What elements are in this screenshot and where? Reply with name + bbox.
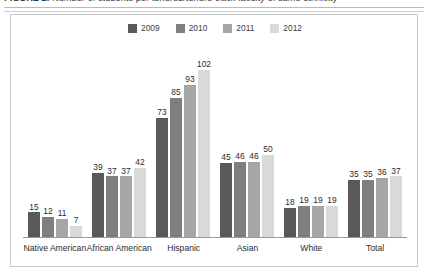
- legend-item-2011[interactable]: 2011: [223, 24, 254, 33]
- bar-value-label: 93: [185, 75, 194, 83]
- bar-rect: [170, 98, 183, 237]
- bar-value-label: 11: [58, 209, 67, 217]
- bar-value-label: 19: [327, 196, 336, 204]
- chart-frame: 2009201020112012 15121173937374273859310…: [10, 14, 418, 267]
- bar-group-hispanic: 738593102: [151, 45, 215, 237]
- bar-white-2011[interactable]: 19: [312, 45, 325, 237]
- bar-rect: [156, 118, 169, 237]
- bar-group-african-american: 39373742: [87, 45, 151, 237]
- bar-rect: [28, 212, 41, 237]
- bar-value-label: 36: [377, 168, 386, 176]
- bar-value-label: 37: [121, 167, 130, 175]
- bar-value-label: 85: [171, 88, 180, 96]
- bar-rect: [326, 206, 339, 237]
- bar-native-american-2012[interactable]: 7: [70, 45, 83, 237]
- bar-value-label: 45: [221, 153, 230, 161]
- bar-total-2009[interactable]: 35: [348, 45, 361, 237]
- bar-native-american-2010[interactable]: 12: [42, 45, 55, 237]
- bar-rect: [120, 176, 133, 237]
- bar-native-american-2011[interactable]: 11: [56, 45, 69, 237]
- bar-value-label: 19: [299, 196, 308, 204]
- bar-value-label: 18: [285, 198, 294, 206]
- bar-total-2011[interactable]: 36: [376, 45, 389, 237]
- x-axis-label-native-american: Native American: [23, 243, 87, 253]
- x-axis-label-african-american: African American: [87, 243, 152, 253]
- figure-caption-number: FIGURE 2.: [4, 0, 49, 3]
- bar-rect: [106, 176, 119, 237]
- bar-asian-2012[interactable]: 50: [262, 45, 275, 237]
- bar-hispanic-2012[interactable]: 102: [198, 45, 211, 237]
- caption-rule-thick: [4, 7, 424, 8]
- bar-rect: [56, 219, 69, 237]
- bar-hispanic-2011[interactable]: 93: [184, 45, 197, 237]
- x-axis-label-asian: Asian: [216, 243, 280, 253]
- bar-rect: [298, 206, 311, 237]
- legend-swatch-2010: [176, 24, 185, 33]
- bar-value-label: 46: [249, 152, 258, 160]
- bar-group-native-american: 1512117: [23, 45, 87, 237]
- bar-value-label: 46: [235, 152, 244, 160]
- bar-group-white: 18191919: [279, 45, 343, 237]
- bar-total-2010[interactable]: 35: [362, 45, 375, 237]
- bar-value-label: 73: [157, 108, 166, 116]
- bar-asian-2010[interactable]: 46: [234, 45, 247, 237]
- bar-rect: [184, 85, 197, 237]
- legend-item-2010[interactable]: 2010: [176, 24, 208, 33]
- figure-container: FIGURE 2. Number of students per tenured…: [0, 0, 428, 273]
- figure-caption: FIGURE 2. Number of students per tenured…: [4, 0, 428, 5]
- plot-area: 1512117393737427385931024546465018191919…: [23, 45, 407, 237]
- caption-rule-thin: [4, 11, 424, 12]
- chart-legend: 2009201020112012: [11, 24, 419, 33]
- bar-native-american-2009[interactable]: 15: [28, 45, 41, 237]
- bar-white-2012[interactable]: 19: [326, 45, 339, 237]
- bar-value-label: 37: [107, 167, 116, 175]
- bar-african-american-2012[interactable]: 42: [134, 45, 147, 237]
- x-axis-label-hispanic: Hispanic: [152, 243, 216, 253]
- bar-african-american-2011[interactable]: 37: [120, 45, 133, 237]
- bar-total-2012[interactable]: 37: [390, 45, 403, 237]
- legend-label-2012: 2012: [283, 24, 302, 32]
- bar-hispanic-2010[interactable]: 85: [170, 45, 183, 237]
- bar-rect: [284, 208, 297, 237]
- bar-value-label: 39: [93, 163, 102, 171]
- bar-rect: [262, 155, 275, 237]
- bar-african-american-2010[interactable]: 37: [106, 45, 119, 237]
- bar-rect: [42, 217, 55, 237]
- legend-label-2010: 2010: [189, 24, 208, 32]
- bar-value-label: 35: [349, 170, 358, 178]
- legend-item-2009[interactable]: 2009: [128, 24, 160, 33]
- bar-hispanic-2009[interactable]: 73: [156, 45, 169, 237]
- bar-african-american-2009[interactable]: 39: [92, 45, 105, 237]
- legend-item-2012[interactable]: 2012: [270, 24, 302, 33]
- bar-rect: [198, 70, 211, 237]
- bar-value-label: 42: [135, 158, 144, 166]
- bar-rect: [70, 226, 83, 237]
- bar-groups: 1512117393737427385931024546465018191919…: [23, 45, 407, 237]
- legend-swatch-2012: [270, 24, 279, 33]
- bar-value-label: 102: [197, 60, 211, 68]
- bar-rect: [248, 162, 261, 237]
- x-axis-label-total: Total: [343, 243, 407, 253]
- bar-asian-2011[interactable]: 46: [248, 45, 261, 237]
- bar-rect: [390, 176, 403, 237]
- bar-value-label: 35: [363, 170, 372, 178]
- figure-caption-text: Number of students per tenured/tenure-tr…: [49, 0, 337, 3]
- x-axis-label-white: White: [279, 243, 343, 253]
- x-axis-category-labels: Native AmericanAfrican AmericanHispanicA…: [23, 243, 407, 253]
- legend-label-2009: 2009: [141, 24, 160, 32]
- bar-value-label: 7: [74, 216, 79, 224]
- legend-swatch-2009: [128, 24, 137, 33]
- bar-rect: [92, 173, 105, 237]
- bar-rect: [312, 206, 325, 237]
- bar-rect: [234, 162, 247, 237]
- bar-rect: [134, 168, 147, 237]
- bar-value-label: 19: [313, 196, 322, 204]
- bar-group-total: 35353637: [343, 45, 407, 237]
- bar-rect: [348, 180, 361, 237]
- bar-white-2010[interactable]: 19: [298, 45, 311, 237]
- bar-rect: [220, 163, 233, 237]
- bar-group-asian: 45464650: [215, 45, 279, 237]
- bar-asian-2009[interactable]: 45: [220, 45, 233, 237]
- bar-white-2009[interactable]: 18: [284, 45, 297, 237]
- bar-value-label: 15: [29, 203, 38, 211]
